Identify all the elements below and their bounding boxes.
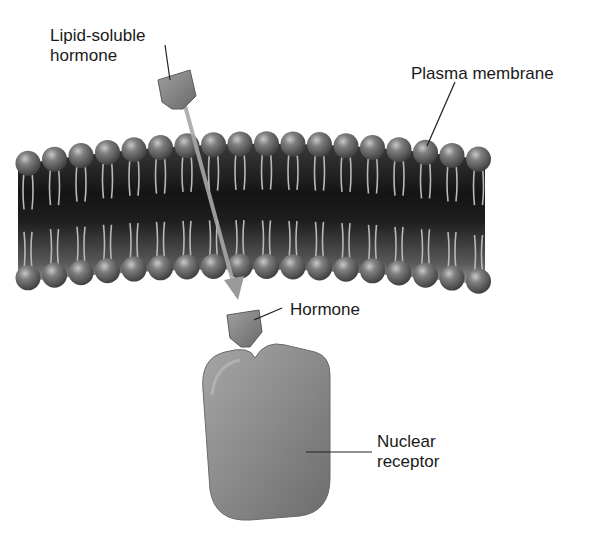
lipid-soluble-hormone <box>158 70 196 109</box>
phospholipid-head <box>201 132 226 157</box>
phospholipid-head <box>228 131 253 156</box>
phospholipid-head <box>360 135 385 160</box>
phospholipid-head <box>413 263 438 288</box>
phospholipid-head <box>281 131 306 156</box>
nuclear-receptor <box>203 344 330 520</box>
phospholipid-head <box>69 260 94 285</box>
plasma-membrane <box>16 131 492 294</box>
phospholipid-head <box>307 132 332 157</box>
phospholipid-head <box>16 151 41 176</box>
leader-lipid-soluble-hormone <box>165 45 170 80</box>
phospholipid-head <box>440 266 465 291</box>
label-lipid-soluble-hormone: Lipid-soluble hormone <box>50 26 145 66</box>
phospholipid-head <box>42 263 67 288</box>
phospholipid-head <box>69 143 94 168</box>
label-nuclear-receptor: Nuclear receptor <box>377 432 439 472</box>
phospholipid-head <box>122 137 147 162</box>
phospholipid-head <box>148 135 173 160</box>
phospholipid-head <box>42 147 67 172</box>
phospholipid-head <box>360 258 385 283</box>
phospholipid-head <box>95 140 120 165</box>
label-plasma-membrane: Plasma membrane <box>411 64 554 84</box>
hormone-inside <box>227 310 262 347</box>
phospholipid-head <box>95 258 120 283</box>
phospholipid-head <box>254 131 279 156</box>
phospholipid-head <box>254 254 279 279</box>
phospholipid-head <box>16 265 41 290</box>
phospholipid-head <box>201 254 226 279</box>
phospholipid-head <box>387 260 412 285</box>
phospholipid-head <box>334 133 359 158</box>
phospholipid-head <box>175 254 200 279</box>
label-hormone: Hormone <box>290 300 360 320</box>
phospholipid-head <box>387 137 412 162</box>
phospholipid-head <box>122 257 147 282</box>
hormone-diagram: Lipid-soluble hormone Plasma membrane Ho… <box>0 0 593 535</box>
phospholipid-head <box>148 255 173 280</box>
phospholipid-head <box>466 269 491 294</box>
phospholipid-head <box>334 257 359 282</box>
phospholipid-head <box>413 140 438 165</box>
phospholipid-head <box>307 255 332 280</box>
phospholipid-head <box>466 147 491 172</box>
phospholipid-head <box>281 254 306 279</box>
leader-plasma-membrane <box>427 82 455 146</box>
phospholipid-head <box>440 143 465 168</box>
